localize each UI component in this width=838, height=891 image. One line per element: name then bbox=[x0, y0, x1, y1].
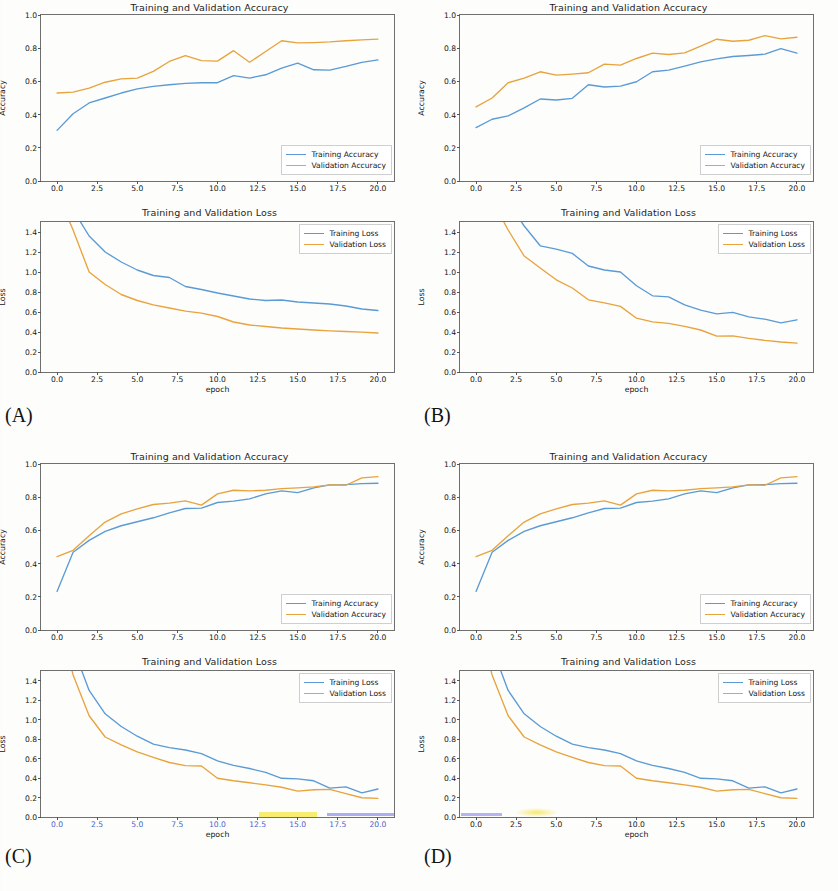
series-line bbox=[57, 60, 378, 131]
legend-line-icon bbox=[304, 682, 324, 683]
x-tick-label: 2.5 bbox=[91, 184, 103, 193]
x-tick-label: 5.0 bbox=[131, 820, 143, 829]
x-tick-label: 7.5 bbox=[171, 820, 183, 829]
chart-legend[interactable]: Training AccuracyValidation Accuracy bbox=[700, 145, 811, 175]
x-tick-label: 0.0 bbox=[470, 184, 482, 193]
y-tick-label: 1.0 bbox=[15, 460, 37, 469]
x-tick-label: 0.0 bbox=[470, 633, 482, 642]
y-tick-mark bbox=[38, 596, 41, 597]
legend-item[interactable]: Validation Loss bbox=[723, 239, 805, 250]
x-tick-label: 17.5 bbox=[329, 375, 346, 384]
y-tick-mark bbox=[38, 272, 41, 273]
legend-item[interactable]: Validation Loss bbox=[304, 239, 386, 250]
x-tick-label: 7.5 bbox=[590, 184, 602, 193]
x-tick-label: 10.0 bbox=[209, 820, 226, 829]
chart-legend[interactable]: Training AccuracyValidation Accuracy bbox=[700, 594, 811, 624]
x-tick-mark bbox=[796, 181, 797, 184]
legend-item[interactable]: Training Loss bbox=[723, 677, 805, 688]
legend-label: Validation Loss bbox=[748, 688, 805, 699]
y-axis-label: Accuracy bbox=[417, 529, 426, 565]
y-tick-mark bbox=[38, 114, 41, 115]
x-tick-mark bbox=[177, 372, 178, 375]
x-tick-label: 17.5 bbox=[329, 184, 346, 193]
chart-legend[interactable]: Training LossValidation Loss bbox=[718, 673, 811, 703]
y-tick-label: 0.2 bbox=[434, 348, 456, 357]
x-tick-mark bbox=[257, 817, 258, 820]
plot-area: 0.00.20.40.60.81.00.02.55.07.510.012.515… bbox=[40, 463, 395, 631]
x-tick-label: 17.5 bbox=[748, 820, 765, 829]
x-tick-mark bbox=[636, 181, 637, 184]
legend-line-icon bbox=[705, 603, 725, 604]
legend-item[interactable]: Training Accuracy bbox=[705, 149, 805, 160]
y-tick-mark bbox=[457, 252, 460, 253]
chart-legend[interactable]: Training LossValidation Loss bbox=[299, 224, 392, 254]
legend-item[interactable]: Training Loss bbox=[304, 677, 386, 688]
x-tick-mark bbox=[596, 372, 597, 375]
series-line bbox=[476, 49, 797, 128]
x-tick-mark bbox=[57, 372, 58, 375]
y-tick-label: 1.2 bbox=[434, 248, 456, 257]
legend-item[interactable]: Validation Accuracy bbox=[705, 609, 805, 620]
y-tick-mark bbox=[457, 232, 460, 233]
x-tick-label: 10.0 bbox=[209, 184, 226, 193]
y-tick-mark bbox=[38, 797, 41, 798]
y-axis-label: Accuracy bbox=[0, 529, 7, 565]
x-tick-label: 15.0 bbox=[708, 820, 725, 829]
y-tick-mark bbox=[38, 232, 41, 233]
panel-a-accuracy-figure: Training and Validation Accuracy 0.00.20… bbox=[0, 0, 419, 205]
chart-title: Training and Validation Accuracy bbox=[0, 451, 419, 462]
legend-item[interactable]: Validation Loss bbox=[304, 688, 386, 699]
y-tick-mark bbox=[38, 758, 41, 759]
x-tick-label: 2.5 bbox=[510, 184, 522, 193]
y-tick-label: 0.6 bbox=[434, 754, 456, 763]
panel-c: Training and Validation Accuracy 0.00.20… bbox=[0, 445, 419, 891]
x-tick-label: 7.5 bbox=[590, 633, 602, 642]
legend-item[interactable]: Validation Accuracy bbox=[705, 160, 805, 171]
x-tick-label: 7.5 bbox=[171, 184, 183, 193]
x-tick-mark bbox=[716, 181, 717, 184]
x-axis-label: epoch bbox=[41, 385, 394, 394]
x-tick-label: 2.5 bbox=[91, 633, 103, 642]
x-tick-label: 2.5 bbox=[91, 820, 103, 829]
y-tick-label: 0.4 bbox=[15, 328, 37, 337]
y-tick-label: 1.0 bbox=[434, 715, 456, 724]
x-tick-label: 10.0 bbox=[628, 633, 645, 642]
x-tick-mark bbox=[377, 181, 378, 184]
y-tick-label: 0.6 bbox=[434, 308, 456, 317]
legend-item[interactable]: Training Accuracy bbox=[286, 149, 386, 160]
x-tick-label: 0.0 bbox=[51, 633, 63, 642]
legend-item[interactable]: Training Loss bbox=[304, 228, 386, 239]
legend-line-icon bbox=[304, 233, 324, 234]
x-tick-label: 5.0 bbox=[550, 184, 562, 193]
y-tick-mark bbox=[457, 147, 460, 148]
chart-legend[interactable]: Training LossValidation Loss bbox=[299, 673, 392, 703]
y-tick-mark bbox=[457, 817, 460, 818]
y-tick-mark bbox=[38, 680, 41, 681]
y-tick-label: 0.0 bbox=[15, 368, 37, 377]
legend-item[interactable]: Training Accuracy bbox=[286, 598, 386, 609]
x-tick-mark bbox=[516, 181, 517, 184]
legend-item[interactable]: Training Loss bbox=[723, 228, 805, 239]
y-tick-label: 1.2 bbox=[15, 248, 37, 257]
x-tick-label: 20.0 bbox=[369, 375, 386, 384]
legend-item[interactable]: Validation Accuracy bbox=[286, 609, 386, 620]
x-tick-mark bbox=[716, 372, 717, 375]
chart-legend[interactable]: Training LossValidation Loss bbox=[718, 224, 811, 254]
legend-item[interactable]: Validation Loss bbox=[723, 688, 805, 699]
x-tick-mark bbox=[756, 817, 757, 820]
y-tick-label: 0.8 bbox=[15, 493, 37, 502]
x-tick-label: 20.0 bbox=[369, 820, 386, 829]
legend-item[interactable]: Training Accuracy bbox=[705, 598, 805, 609]
y-tick-mark bbox=[38, 181, 41, 182]
y-axis-label: Loss bbox=[417, 735, 426, 752]
chart-legend[interactable]: Training AccuracyValidation Accuracy bbox=[281, 145, 392, 175]
x-tick-label: 10.0 bbox=[628, 375, 645, 384]
plot-area: 0.00.20.40.60.81.01.21.40.02.55.07.510.0… bbox=[459, 221, 814, 373]
y-tick-label: 0.6 bbox=[15, 308, 37, 317]
legend-label: Validation Loss bbox=[329, 688, 386, 699]
chart-legend[interactable]: Training AccuracyValidation Accuracy bbox=[281, 594, 392, 624]
panel-a-loss-figure: Training and Validation Loss 0.00.20.40.… bbox=[0, 205, 419, 400]
x-tick-mark bbox=[476, 181, 477, 184]
series-line bbox=[476, 36, 797, 107]
legend-item[interactable]: Validation Accuracy bbox=[286, 160, 386, 171]
